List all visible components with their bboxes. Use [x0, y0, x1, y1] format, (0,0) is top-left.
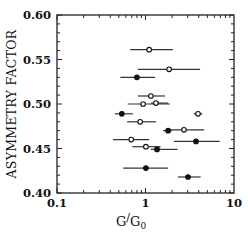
open-circle-marker: [196, 111, 201, 116]
svg-text:G/G0: G/G0: [116, 211, 147, 231]
filled-circle-marker: [186, 175, 191, 180]
filled-circle-marker: [194, 139, 199, 144]
filled-circle-marker: [166, 128, 171, 133]
x-tick-label: 10: [226, 196, 242, 210]
x-axis-title-denominator: G: [130, 214, 140, 229]
open-data-point: [128, 102, 170, 107]
filled-circle-marker: [155, 147, 160, 152]
filled-circle-marker: [144, 166, 149, 171]
x-axis-title-subscript: 0: [140, 221, 146, 231]
y-tick-label: 0.45: [23, 142, 51, 156]
filled-data-point: [174, 139, 220, 144]
open-circle-marker: [138, 120, 143, 125]
data-points: [113, 47, 220, 179]
filled-data-point: [115, 111, 133, 116]
y-tick-label: 0.60: [23, 8, 51, 22]
open-circle-marker: [147, 47, 152, 52]
filled-circle-marker: [135, 75, 140, 80]
asymmetry-factor-chart: 0.1110 0.400.450.500.550.60 ASYMMETRY FA…: [0, 0, 248, 234]
y-tick-label: 0.40: [23, 186, 51, 200]
open-circle-marker: [141, 102, 146, 107]
open-circle-marker: [167, 67, 172, 72]
open-data-point: [113, 137, 149, 142]
y-axis-title: ASYMMETRY FACTOR: [4, 29, 19, 179]
y-tick-label: 0.50: [23, 97, 51, 111]
filled-data-point: [163, 128, 172, 133]
filled-data-point: [123, 166, 168, 171]
open-data-point: [168, 128, 204, 133]
filled-circle-marker: [120, 111, 125, 116]
y-axis-tick-labels: 0.400.450.500.550.60: [23, 8, 51, 200]
filled-data-point: [151, 147, 178, 152]
open-circle-marker: [129, 137, 134, 142]
open-data-point: [151, 101, 168, 106]
open-circle-marker: [154, 101, 159, 106]
x-axis-title-numerator: G: [116, 214, 126, 229]
open-circle-marker: [149, 94, 154, 99]
x-axis-title: G/G0: [116, 211, 147, 231]
open-circle-marker: [182, 128, 187, 133]
open-data-point: [138, 67, 200, 72]
open-data-point: [127, 120, 156, 125]
x-tick-label: 1: [141, 196, 149, 210]
open-data-point: [130, 47, 173, 52]
open-data-point: [138, 94, 165, 99]
y-tick-label: 0.55: [23, 53, 51, 67]
open-circle-marker: [144, 144, 149, 149]
x-axis-tick-labels: 0.1110: [47, 196, 242, 210]
filled-data-point: [178, 175, 201, 180]
filled-data-point: [120, 75, 155, 80]
open-data-point: [194, 111, 203, 116]
